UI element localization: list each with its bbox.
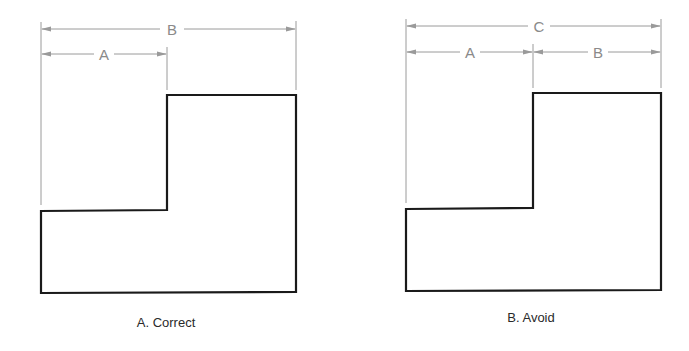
caption-avoid: B. Avoid	[507, 310, 554, 325]
dimension-label-a: A	[99, 46, 109, 63]
dimension-label-a: A	[465, 44, 475, 61]
dimension-c-overall: C	[407, 18, 660, 35]
dimension-b-overall: B	[42, 21, 295, 38]
l-shape-outline	[41, 95, 296, 293]
dimensioning-diagram: B A A. Correct C A	[0, 0, 689, 351]
dimension-label-c: C	[534, 18, 545, 35]
figure-correct: B A A. Correct	[41, 21, 296, 330]
caption-correct: A. Correct	[137, 315, 196, 330]
figure-avoid: C A B B. Avoid	[406, 18, 661, 325]
dimension-a: A	[407, 44, 532, 61]
l-shape-outline	[406, 93, 661, 291]
dimension-b: B	[534, 44, 660, 61]
dimension-a: A	[42, 46, 166, 63]
dimension-label-b: B	[593, 44, 603, 61]
dimension-label-b: B	[167, 21, 177, 38]
